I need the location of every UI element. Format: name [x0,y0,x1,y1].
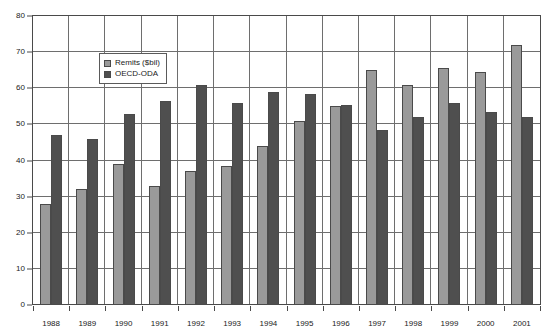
bar-remits-1989 [76,189,87,305]
x-axis-tick-label: 1997 [368,320,386,328]
bar-remits-2000 [475,72,486,305]
bar-remits-1990 [113,164,124,305]
bar-remits-1994 [257,146,268,305]
bar-oda-2001 [522,117,533,305]
bar-group-1998 [402,16,424,305]
legend-item-remits: Remits ($bil) [104,58,160,68]
x-axis-tick-label: 1990 [115,320,133,328]
bar-group-1993 [221,16,243,305]
x-axis-tick-label: 1996 [332,320,350,328]
x-axis-tick-mark [33,306,34,311]
bar-oda-1999 [449,103,460,305]
bar-oda-1989 [87,139,98,305]
y-axis-tick-label: 50 [16,120,25,128]
bar-group-1989 [76,16,98,305]
x-axis-tick-mark [431,306,432,311]
x-axis-tick-mark [540,306,541,311]
bar-chart: 01020304050607080 1988198919901991199219… [0,0,552,336]
legend-swatch-remits-icon [104,60,111,67]
x-axis-tick-label: 1999 [441,320,459,328]
bar-group-1999 [438,16,460,305]
y-axis-tick-label: 20 [16,229,25,237]
bar-oda-1997 [377,130,388,305]
bar-remits-1988 [40,204,51,305]
x-axis-tick-label: 1994 [259,320,277,328]
x-axis-tick-mark [178,306,179,311]
bar-group-1997 [366,16,388,305]
y-axis: 01020304050607080 [0,0,32,320]
legend-label: Remits ($bil) [115,59,160,67]
bar-oda-1993 [232,103,243,305]
bar-remits-1998 [402,85,413,305]
bar-oda-1988 [51,135,62,305]
bar-group-1995 [294,16,316,305]
y-axis-tick-label: 60 [16,84,25,92]
bar-remits-1991 [149,186,160,305]
x-axis-tick-mark [105,306,106,311]
x-axis-tick-label: 2000 [477,320,495,328]
x-axis-tick-label: 1991 [151,320,169,328]
y-axis-tick-label: 0 [21,301,25,309]
y-axis-tick-label: 40 [16,157,25,165]
x-axis-tick-label: 1993 [223,320,241,328]
y-axis-tick-label: 80 [16,12,25,20]
x-axis-tick-label: 1989 [78,320,96,328]
y-axis-tick-label: 10 [16,265,25,273]
x-axis-tick-label: 1988 [42,320,60,328]
bar-remits-1997 [366,70,377,305]
bar-group-1992 [185,16,207,305]
x-axis-tick-mark [287,306,288,311]
x-axis: 1988198919901991199219931994199519961997… [33,306,540,334]
bar-group-1988 [40,16,62,305]
bar-remits-1999 [438,68,449,305]
x-axis-tick-mark [395,306,396,311]
x-axis-tick-label: 1992 [187,320,205,328]
x-axis-tick-mark [359,306,360,311]
bar-oda-1990 [124,114,135,305]
x-axis-tick-label: 1998 [404,320,422,328]
bar-remits-1992 [185,171,196,305]
bar-group-1994 [257,16,279,305]
bar-oda-1998 [413,117,424,305]
bar-oda-1995 [305,94,316,305]
x-axis-tick-label: 2001 [513,320,531,328]
bar-remits-1995 [294,121,305,305]
y-axis-tick-label: 70 [16,48,25,56]
bar-group-2001 [511,16,533,305]
bar-oda-1996 [341,105,352,305]
bar-remits-1993 [221,166,232,305]
legend-item-oda: OECD-ODA [104,69,160,79]
bar-oda-1991 [160,101,171,305]
bar-group-1996 [330,16,352,305]
x-axis-tick-mark [142,306,143,311]
x-axis-tick-mark [250,306,251,311]
bar-oda-1994 [268,92,279,305]
x-axis-tick-mark [468,306,469,311]
legend-swatch-oda-icon [104,71,111,78]
x-axis-tick-label: 1995 [296,320,314,328]
legend-label: OECD-ODA [115,70,158,78]
bar-group-2000 [475,16,497,305]
x-axis-tick-mark [504,306,505,311]
x-axis-tick-mark [214,306,215,311]
x-axis-tick-mark [323,306,324,311]
bar-remits-2001 [511,45,522,305]
bar-oda-2000 [486,112,497,305]
x-axis-tick-mark [69,306,70,311]
bar-remits-1996 [330,106,341,305]
bar-oda-1992 [196,85,207,305]
chart-legend: Remits ($bil)OECD-ODA [99,53,167,84]
y-axis-tick-label: 30 [16,193,25,201]
